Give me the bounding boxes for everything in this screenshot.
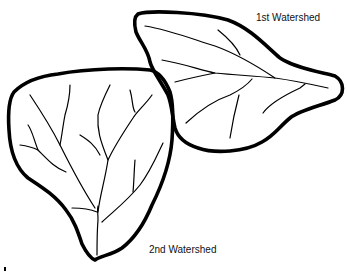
- watershed-2: [9, 69, 173, 260]
- ws1-tributary: [263, 84, 305, 113]
- ws2-branch: [72, 208, 97, 212]
- ws2-branch: [98, 85, 110, 160]
- ws1-main-channel: [145, 26, 328, 88]
- watershed-2-label: 2nd Watershed: [149, 244, 216, 255]
- ws2-branch: [60, 85, 70, 145]
- ws1-tributary: [175, 73, 215, 82]
- watershed-2-boundary: [9, 69, 173, 260]
- ws2-branch: [130, 90, 135, 112]
- ws1-tributary: [230, 95, 239, 138]
- ws2-branch: [80, 135, 100, 155]
- ws1-tributary: [162, 60, 275, 78]
- watershed-diagram: [0, 0, 347, 273]
- ws2-branch: [20, 145, 38, 150]
- ws1-tributary: [186, 79, 252, 123]
- corner-mark: [4, 267, 6, 271]
- watershed-1-label: 1st Watershed: [256, 12, 320, 23]
- ws2-main-channel: [97, 206, 98, 255]
- ws2-branch: [133, 160, 135, 192]
